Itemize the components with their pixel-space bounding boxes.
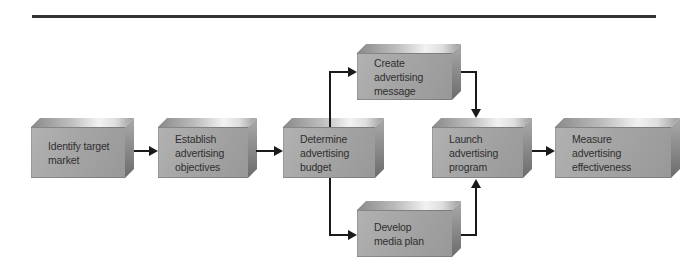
node-label-line: message bbox=[374, 84, 448, 98]
connector-segment bbox=[329, 71, 348, 73]
node-side-face bbox=[248, 118, 257, 178]
node-label-line: objectives bbox=[175, 160, 244, 174]
connector-segment bbox=[532, 150, 547, 152]
node-top-face bbox=[357, 201, 461, 210]
node-create-advertising-message: Create advertising message bbox=[357, 44, 461, 100]
node-top-face bbox=[432, 118, 532, 127]
node-label-line: Launch bbox=[449, 132, 519, 146]
node-label-line: effectiveness bbox=[572, 160, 667, 174]
node-top-face bbox=[283, 118, 384, 127]
arrowhead-right-icon bbox=[348, 230, 357, 240]
node-front-face: Create advertising message bbox=[357, 53, 452, 100]
node-front-face: Launch advertising program bbox=[432, 127, 523, 178]
node-label-line: program bbox=[449, 160, 519, 174]
node-label-line: advertising bbox=[300, 146, 371, 160]
node-label-line: media plan bbox=[374, 234, 448, 248]
node-measure-advertising-effectiveness: Measure advertising effectiveness bbox=[555, 118, 680, 178]
connector-segment bbox=[256, 150, 274, 152]
node-side-face bbox=[523, 118, 532, 178]
arrowhead-up-icon bbox=[471, 179, 481, 188]
arrowhead-right-icon bbox=[274, 146, 283, 156]
node-label-line: Develop bbox=[374, 220, 448, 234]
connector-segment bbox=[134, 150, 150, 152]
node-label-line: advertising bbox=[449, 146, 519, 160]
arrowhead-right-icon bbox=[546, 146, 555, 156]
connector-segment bbox=[461, 234, 477, 236]
node-develop-media-plan: Develop media plan bbox=[357, 201, 461, 257]
connector-segment bbox=[461, 71, 477, 73]
node-side-face bbox=[452, 201, 461, 257]
node-front-face: Develop media plan bbox=[357, 210, 452, 257]
node-front-face: Determine advertising budget bbox=[283, 127, 375, 178]
connector-segment bbox=[329, 178, 331, 236]
node-determine-advertising-budget: Determine advertising budget bbox=[283, 118, 384, 178]
connector-segment bbox=[329, 234, 348, 236]
node-label-line: Determine bbox=[300, 132, 371, 146]
arrowhead-down-icon bbox=[471, 109, 481, 118]
flowchart-canvas: Identify target market Establish adverti… bbox=[0, 0, 690, 278]
node-side-face bbox=[125, 118, 134, 178]
node-top-face bbox=[158, 118, 257, 127]
node-label-line: Establish bbox=[175, 132, 244, 146]
arrowhead-right-icon bbox=[149, 146, 158, 156]
connector-segment bbox=[475, 71, 477, 109]
node-top-face bbox=[555, 118, 680, 127]
node-top-face bbox=[31, 118, 134, 127]
node-side-face bbox=[452, 44, 461, 100]
node-label-line: advertising bbox=[572, 146, 667, 160]
node-side-face bbox=[671, 118, 680, 178]
node-label-line: Measure bbox=[572, 132, 667, 146]
node-label-line: Identify target bbox=[48, 139, 121, 153]
top-rule bbox=[32, 15, 656, 18]
connector-segment bbox=[475, 188, 477, 236]
node-label-line: Create bbox=[374, 56, 448, 70]
node-label-line: budget bbox=[300, 160, 371, 174]
node-top-face bbox=[357, 44, 461, 53]
node-front-face: Establish advertising objectives bbox=[158, 127, 248, 178]
node-front-face: Measure advertising effectiveness bbox=[555, 127, 671, 178]
node-identify-target-market: Identify target market bbox=[31, 118, 134, 178]
node-launch-advertising-program: Launch advertising program bbox=[432, 118, 532, 178]
node-label-line: advertising bbox=[175, 146, 244, 160]
node-label-line: market bbox=[48, 153, 121, 167]
node-side-face bbox=[375, 118, 384, 178]
node-label-line: advertising bbox=[374, 70, 448, 84]
node-front-face: Identify target market bbox=[31, 127, 125, 178]
arrowhead-right-icon bbox=[348, 67, 357, 77]
node-establish-advertising-objectives: Establish advertising objectives bbox=[158, 118, 257, 178]
